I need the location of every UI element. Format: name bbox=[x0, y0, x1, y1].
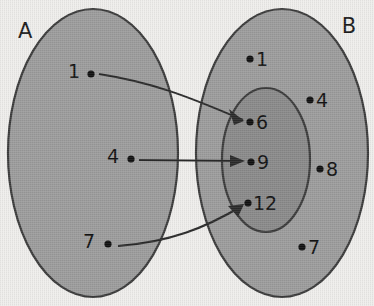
point-dot bbox=[247, 158, 254, 165]
set-a-ellipse bbox=[8, 9, 178, 297]
element-label: 9 bbox=[257, 151, 269, 173]
element-label: 6 bbox=[256, 111, 268, 133]
element-label: 4 bbox=[316, 89, 328, 111]
point-dot bbox=[246, 55, 253, 62]
element-label: 12 bbox=[253, 192, 277, 214]
point-dot bbox=[298, 243, 305, 250]
point-dot bbox=[306, 96, 313, 103]
mapping-4-to-9-arrow bbox=[139, 160, 242, 161]
element-label: 7 bbox=[83, 230, 95, 252]
set-mapping-svg: A B 1 4 7 1 4 8 7 6 9 bbox=[0, 0, 374, 306]
set-b-label: B bbox=[342, 14, 356, 38]
element-label: 8 bbox=[326, 158, 338, 180]
point-dot bbox=[87, 70, 94, 77]
diagram-canvas: A B 1 4 7 1 4 8 7 6 9 bbox=[0, 0, 374, 306]
element-label: 1 bbox=[256, 48, 268, 70]
point-dot bbox=[104, 240, 111, 247]
element-label: 7 bbox=[308, 236, 320, 258]
set-a-label: A bbox=[18, 19, 33, 43]
point-dot bbox=[127, 155, 134, 162]
element-label: 4 bbox=[107, 145, 119, 167]
point-dot bbox=[316, 165, 323, 172]
point-dot bbox=[246, 118, 253, 125]
element-label: 1 bbox=[68, 60, 80, 82]
point-dot bbox=[244, 199, 251, 206]
